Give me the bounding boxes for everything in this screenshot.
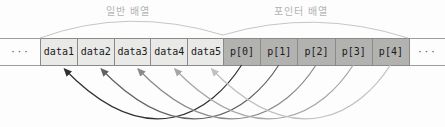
memory-ellipsis-right: ···: [409, 38, 445, 66]
regular-array-cells: data1data2data3data4data5: [40, 38, 224, 66]
pointer-cell-4: p[4]: [372, 38, 410, 66]
regular-array-brace: [40, 21, 223, 38]
pointer-arrow-p[2]-to-data3: [138, 65, 316, 119]
pointer-array-brace: [223, 22, 408, 38]
pointer-array-label: 포인터 배열: [274, 3, 328, 18]
pointer-cell-2: p[2]: [297, 38, 335, 66]
pointer-arrow-p[0]-to-data1: [64, 65, 241, 119]
pointer-cell-0: p[0]: [223, 38, 261, 66]
pointer-cell-1: p[1]: [260, 38, 298, 66]
data-cell-4: data5: [187, 38, 225, 66]
pointer-arrow-p[4]-to-data5: [212, 65, 391, 119]
pointer-cell-3: p[3]: [335, 38, 373, 66]
memory-ellipsis-left: ···: [0, 38, 40, 66]
data-cell-3: data4: [150, 38, 188, 66]
data-cell-2: data3: [114, 38, 152, 66]
pointer-array-cells: p[0]p[1]p[2]p[3]p[4]: [223, 38, 409, 66]
pointer-arrow-p[3]-to-data4: [175, 65, 353, 119]
pointer-arrow-p[1]-to-data2: [101, 65, 279, 119]
pointer-array-diagram: 일반 배열 포인터 배열 ··· data1data2data3data4dat…: [0, 0, 445, 127]
data-cell-0: data1: [40, 38, 78, 66]
data-cell-1: data2: [77, 38, 115, 66]
regular-array-label: 일반 배열: [106, 3, 150, 18]
